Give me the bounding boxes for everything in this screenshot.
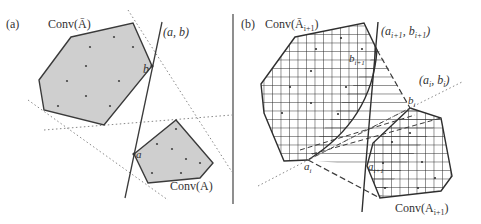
label-point-b: b bbox=[143, 62, 149, 76]
label-conv-a-bar-next: Conv(Āi+1) bbox=[265, 17, 318, 33]
panel-a-tag: (a) bbox=[6, 17, 19, 31]
label-conv-a: Conv(A) bbox=[170, 179, 213, 193]
label-line-next: (ai+1, bi+1) bbox=[381, 24, 430, 40]
conv-a-polygon bbox=[134, 120, 213, 183]
panel-a: (a) Conv(Ā) (a, b) b a Conv(A) bbox=[6, 10, 232, 200]
conv-a-bar-polygon bbox=[39, 23, 152, 125]
label-point-a: a bbox=[136, 148, 142, 160]
label-line-cur: (ai, bi) bbox=[419, 73, 449, 89]
label-line-a-b: (a, b) bbox=[163, 25, 189, 39]
label-conv-a-bar: Conv(Ā) bbox=[48, 17, 91, 31]
label-point-ai: ai bbox=[304, 160, 312, 175]
label-conv-a-next: Conv(Ai+1) bbox=[395, 201, 448, 217]
figure: (a) Conv(Ā) (a, b) b a Conv(A) bbox=[0, 0, 481, 224]
vertex-b bbox=[150, 64, 153, 67]
diagram-canvas: (a) Conv(Ā) (a, b) b a Conv(A) bbox=[0, 0, 481, 224]
panel-b: (b) Conv(Āi+1) (ai+1, bi+1) (ai, bi) bi … bbox=[241, 17, 462, 217]
panel-b-tag: (b) bbox=[241, 17, 255, 31]
